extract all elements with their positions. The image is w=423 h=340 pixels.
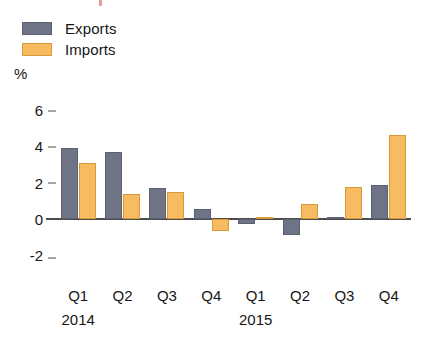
y-tick-6: 6 xyxy=(21,103,56,118)
bar-exports-q2-2014 xyxy=(105,152,122,219)
quarterly-trade-growth-chart: Exports Imports % 6420-2 Q1Q2Q3Q4Q1Q2Q3Q… xyxy=(0,0,423,340)
y-tick-label: 6 xyxy=(21,103,43,118)
legend-swatch-exports-icon xyxy=(22,22,52,35)
x-tick-label-7: Q4 xyxy=(379,288,399,303)
x-tick-label-3: Q4 xyxy=(201,288,221,303)
bar-exports-q4-2015 xyxy=(371,185,388,219)
y-tick-4: 4 xyxy=(21,139,56,154)
bar-series-layer xyxy=(56,110,411,255)
y-tick-label: 0 xyxy=(21,211,43,226)
y-tick-2: 2 xyxy=(21,175,56,190)
y-tick-dash-icon xyxy=(48,258,56,259)
bar-imports-q1-2014 xyxy=(79,163,96,219)
x-axis-year-labels: 20142015 xyxy=(56,312,411,332)
y-tick-dash-icon xyxy=(48,183,56,184)
bar-imports-q3-2015 xyxy=(345,187,362,219)
bar-exports-q2-2015 xyxy=(283,219,300,235)
bar-exports-q3-2014 xyxy=(149,188,166,219)
legend-label-exports: Exports xyxy=(65,21,117,36)
x-tick-label-6: Q3 xyxy=(334,288,354,303)
y-tick-neg2: -2 xyxy=(21,248,56,263)
bar-imports-q4-2015 xyxy=(389,135,406,218)
bar-exports-q4-2014 xyxy=(194,209,211,219)
x-tick-label-2: Q3 xyxy=(157,288,177,303)
x-year-label-1: 2015 xyxy=(239,312,272,327)
legend-item-imports: Imports xyxy=(22,39,117,60)
y-tick-dash-icon xyxy=(48,146,56,147)
bar-imports-q2-2014 xyxy=(123,194,140,218)
bar-imports-q2-2015 xyxy=(301,204,318,219)
y-tick-dash-icon xyxy=(48,110,56,111)
bar-exports-q1-2015 xyxy=(238,219,255,224)
plot-area: 6420-2 xyxy=(56,110,411,255)
x-tick-label-1: Q2 xyxy=(113,288,133,303)
bar-exports-q3-2015 xyxy=(327,217,344,219)
legend-label-imports: Imports xyxy=(65,42,116,57)
page-crop-artifact xyxy=(99,0,102,6)
bar-imports-q3-2014 xyxy=(167,192,184,219)
bar-exports-q1-2014 xyxy=(61,148,78,219)
x-tick-label-5: Q2 xyxy=(290,288,310,303)
x-year-label-0: 2014 xyxy=(62,312,95,327)
y-tick-label: -2 xyxy=(21,248,43,263)
bar-imports-q1-2015 xyxy=(256,217,273,219)
x-axis-quarter-labels: Q1Q2Q3Q4Q1Q2Q3Q4 xyxy=(56,288,411,308)
y-tick-label: 2 xyxy=(21,175,43,190)
y-axis-unit-label: % xyxy=(14,66,27,81)
legend-swatch-imports-icon xyxy=(22,43,52,56)
y-tick-label: 4 xyxy=(21,139,43,154)
legend-item-exports: Exports xyxy=(22,18,117,39)
x-tick-label-4: Q1 xyxy=(246,288,266,303)
chart-legend: Exports Imports xyxy=(22,18,117,60)
bar-imports-q4-2014 xyxy=(212,219,229,232)
x-tick-label-0: Q1 xyxy=(68,288,88,303)
